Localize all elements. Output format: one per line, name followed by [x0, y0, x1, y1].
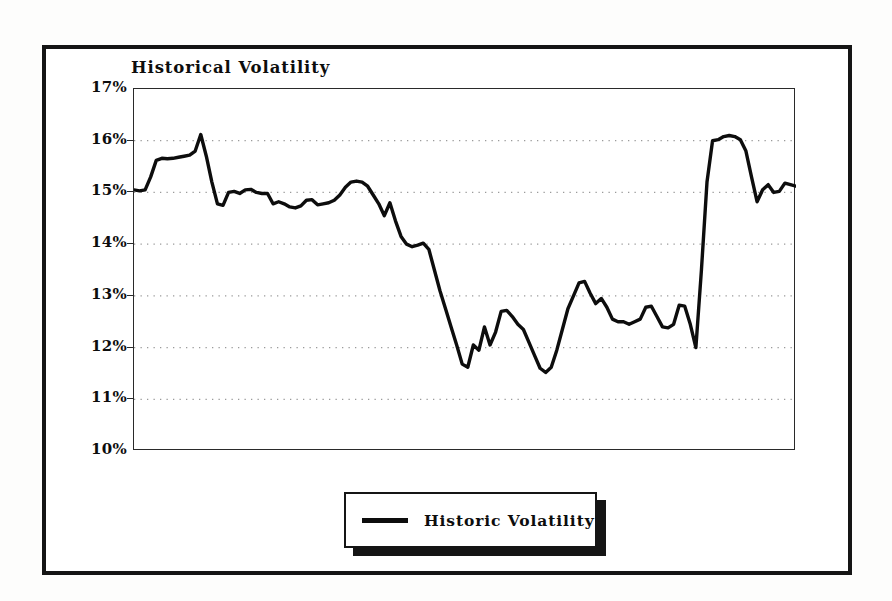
y-axis-tick-label: 16%	[73, 130, 127, 148]
y-axis: 17%16%15%14%13%12%11%10%	[70, 88, 127, 450]
legend: Historic Volatility	[344, 492, 597, 548]
y-axis-tick-mark	[127, 295, 134, 296]
legend-line-swatch-icon	[362, 518, 408, 523]
y-axis-tick-label: 17%	[73, 78, 127, 96]
plot-area	[133, 88, 795, 450]
y-axis-tick-label: 12%	[73, 337, 127, 355]
series-line-historic-volatility	[134, 135, 796, 373]
y-axis-tick-mark	[127, 243, 134, 244]
chart-title: Historical Volatility	[131, 58, 330, 77]
gridlines	[134, 141, 796, 400]
y-axis-tick-label: 13%	[73, 285, 127, 303]
y-axis-tick-label: 14%	[73, 233, 127, 251]
y-axis-tick-mark	[127, 347, 134, 348]
y-axis-tick-label: 10%	[73, 440, 127, 458]
scanned-page: Historical Volatility 17%16%15%14%13%12%…	[0, 0, 892, 601]
y-axis-tick-mark	[127, 140, 134, 141]
y-axis-tick-mark	[127, 398, 134, 399]
y-axis-tick-label: 11%	[73, 388, 127, 406]
y-axis-tick-label: 15%	[73, 181, 127, 199]
y-axis-tick-mark	[127, 191, 134, 192]
legend-label: Historic Volatility	[424, 511, 595, 530]
volatility-line-chart	[134, 89, 796, 451]
